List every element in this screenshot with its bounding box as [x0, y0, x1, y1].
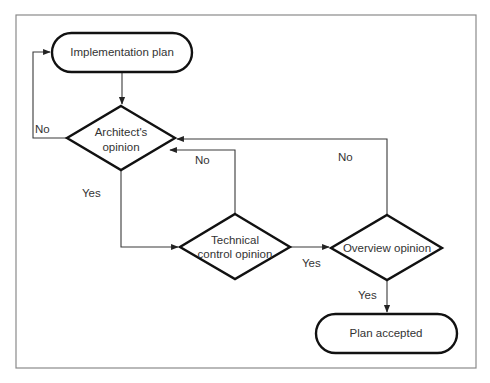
- node-implementation-plan-text: Implementation plan: [70, 46, 174, 58]
- label-architect-no: No: [35, 123, 50, 135]
- label-overview-yes: Yes: [358, 289, 377, 301]
- node-technical-control-opinion: Technical control opinion: [180, 214, 290, 279]
- node-plan-accepted: Plan accepted: [316, 314, 457, 353]
- label-architect-yes: Yes: [82, 187, 101, 199]
- node-overview-text: Overview opinion: [343, 242, 431, 254]
- node-architect-opinion: Architect's opinion: [67, 106, 175, 170]
- node-technical-line2: control opinion: [198, 248, 273, 260]
- label-technical-yes: Yes: [302, 257, 321, 269]
- node-architect-opinion-line2: opinion: [102, 141, 139, 153]
- edge-architect-yes-to-technical: [121, 170, 178, 247]
- node-overview-opinion: Overview opinion: [331, 215, 442, 280]
- node-technical-line1: Technical: [211, 234, 259, 246]
- label-technical-no: No: [195, 154, 210, 166]
- node-plan-accepted-text: Plan accepted: [350, 327, 423, 339]
- node-architect-opinion-line1: Architect's: [95, 126, 148, 138]
- flowchart-diagram: No Yes No Yes No Yes Implementation plan…: [0, 0, 490, 383]
- label-overview-no: No: [338, 151, 353, 163]
- node-implementation-plan: Implementation plan: [52, 33, 192, 72]
